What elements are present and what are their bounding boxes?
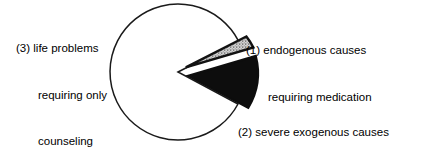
pie-label-1-marker: (1) — [246, 44, 260, 56]
pie-label-1-line1: endogenous causes — [263, 44, 366, 56]
pie-label-3: (3) life problems requiring only counsel… — [16, 10, 107, 154]
pie-diagram-figure: (3) life problems requiring only counsel… — [0, 0, 445, 154]
pie-label-3-marker: (3) — [16, 42, 30, 54]
pie-label-3-line1: life problems — [33, 42, 98, 54]
pie-label-2: (2) severe exogenous causes which benefi… — [238, 94, 395, 154]
pie-label-3-line2: requiring only — [16, 88, 107, 104]
pie-label-2-line1: severe exogenous causes — [255, 126, 389, 138]
pie-label-3-line3: counseling — [16, 134, 107, 150]
pie-label-2-marker: (2) — [238, 126, 252, 138]
